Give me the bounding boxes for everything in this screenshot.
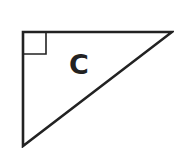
triangle-diagram: C	[0, 0, 174, 148]
triangle-label: C	[69, 49, 89, 80]
